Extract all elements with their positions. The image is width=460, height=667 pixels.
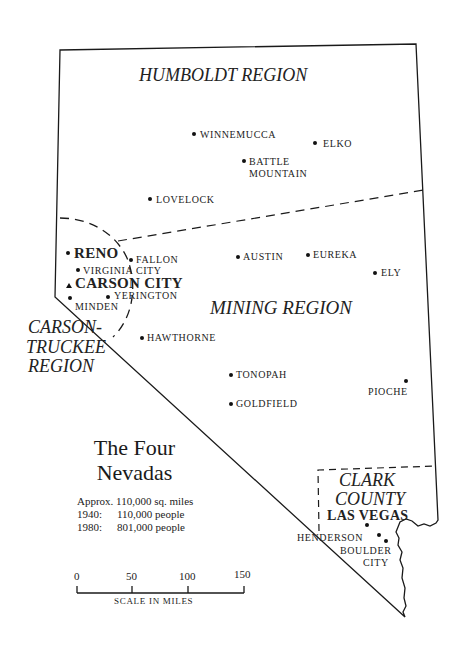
- scale-tick-50: 50: [126, 570, 137, 582]
- mining-region-label: MINING REGION: [210, 298, 352, 317]
- city-dot-hawthorne: [140, 336, 144, 340]
- city-battle-mountain-2: MOUNTAIN: [249, 168, 307, 179]
- map-title-line2: Nevadas: [82, 460, 187, 485]
- city-eureka: EUREKA: [313, 249, 357, 260]
- city-tonopah: TONOPAH: [236, 369, 287, 380]
- city-battle-mountain-1: BATTLE: [249, 156, 290, 167]
- city-dot-tonopah: [229, 373, 233, 377]
- city-winnemucca: WINNEMUCCA: [200, 129, 276, 140]
- city-ely: ELY: [381, 267, 401, 278]
- city-goldfield: GOLDFIELD: [236, 398, 298, 409]
- map-title-line1: The Four: [82, 435, 187, 460]
- carson-truckee-label-1: CARSON-: [28, 318, 102, 336]
- city-austin: AUSTIN: [243, 251, 283, 262]
- city-elko: ELKO: [323, 138, 352, 149]
- facts-area: Approx. 110,000 sq. miles: [77, 495, 193, 508]
- scale-tick-0: 0: [74, 570, 80, 582]
- city-hawthorne: HAWTHORNE: [147, 332, 216, 343]
- scale-bar: [77, 586, 244, 593]
- humboldt-region-label: HUMBOLDT REGION: [139, 66, 307, 84]
- city-dot-henderson: [377, 533, 381, 537]
- city-pioche: PIOCHE: [368, 386, 408, 397]
- city-las-vegas: LAS VEGAS: [327, 508, 408, 523]
- scale-label: SCALE IN MILES: [114, 596, 193, 606]
- city-dot-battle-mountain: [242, 159, 246, 163]
- carson-truckee-label-3: REGION: [28, 357, 94, 375]
- city-yerington: YERINGTON: [114, 290, 178, 301]
- city-dot-reno: [66, 251, 70, 255]
- city-dot-ely: [373, 271, 377, 275]
- city-dot-virginia-city: [76, 268, 80, 272]
- city-dot-pioche: [404, 379, 408, 383]
- city-dot-winnemucca: [192, 132, 196, 136]
- facts-1940-value: 110,000 people: [117, 508, 184, 521]
- city-boulder-city-1: BOULDER: [340, 545, 391, 556]
- facts-1980-label: 1980:: [77, 521, 117, 534]
- city-dot-austin: [236, 255, 240, 259]
- city-dot-yerington: [106, 295, 110, 299]
- city-dot-fallon: [129, 258, 133, 262]
- city-dot-boulder-city: [384, 539, 388, 543]
- city-minden: MINDEN: [75, 301, 119, 312]
- facts-1940-label: 1940:: [77, 508, 117, 521]
- city-dot-goldfield: [229, 402, 233, 406]
- carson-truckee-label-2: TRUCKEE: [26, 338, 106, 356]
- scale-tick-150: 150: [234, 568, 251, 580]
- city-dot-minden: [68, 296, 72, 300]
- city-lovelock: LOVELOCK: [156, 194, 215, 205]
- clark-county-label-2: COUNTY: [335, 490, 405, 508]
- scale-tick-100: 100: [179, 570, 196, 582]
- city-dot-lovelock: [148, 197, 152, 201]
- city-fallon: FALLON: [136, 254, 178, 265]
- clark-county-label-1: CLARK: [339, 471, 395, 489]
- city-carson-city: CARSON CITY: [75, 276, 183, 291]
- city-boulder-city-2: CITY: [363, 557, 389, 568]
- map-facts: Approx. 110,000 sq. miles 1940: 110,000 …: [77, 495, 193, 534]
- city-dot-eureka: [306, 253, 310, 257]
- map-title: The Four Nevadas: [82, 435, 187, 485]
- facts-1980-value: 801,000 people: [117, 521, 185, 534]
- city-dot-elko: [313, 141, 317, 145]
- city-dot-las-vegas: [365, 523, 369, 527]
- city-reno: RENO: [74, 246, 119, 261]
- capital-marker-carson-city: [66, 283, 72, 288]
- city-henderson: HENDERSON: [297, 532, 363, 543]
